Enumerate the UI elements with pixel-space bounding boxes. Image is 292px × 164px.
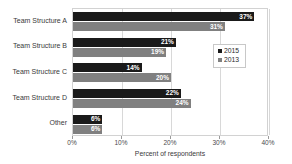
bar-2015: 6% bbox=[73, 115, 102, 124]
gridline bbox=[269, 9, 270, 135]
bar-value-label: 21% bbox=[161, 39, 176, 46]
bar-value-label: 22% bbox=[166, 90, 181, 97]
bar-2013: 24% bbox=[73, 99, 191, 108]
bar-track: 6% bbox=[73, 115, 267, 124]
legend-label: 2015 bbox=[224, 48, 239, 55]
x-axis-title: Percent of respondents bbox=[72, 151, 268, 158]
bar-2013: 6% bbox=[73, 125, 102, 134]
x-axis-ticks: 0%10%20%30%40% bbox=[72, 136, 268, 148]
bar-group: 6%6% bbox=[73, 111, 267, 137]
bar-group: 22%24% bbox=[73, 86, 267, 112]
bar-track: 22% bbox=[73, 89, 267, 98]
legend-label: 2013 bbox=[224, 57, 239, 64]
bar-value-label: 24% bbox=[176, 100, 191, 107]
category-label: Team Structure C bbox=[13, 68, 67, 75]
category-label: Other bbox=[49, 119, 67, 126]
bar-value-label: 14% bbox=[127, 65, 142, 72]
bar-2015: 14% bbox=[73, 63, 142, 72]
x-tick-label: 0% bbox=[67, 140, 76, 147]
category-axis: Team Structure ATeam Structure BTeam Str… bbox=[0, 8, 70, 136]
bar-value-label: 31% bbox=[210, 24, 225, 31]
bar-value-label: 6% bbox=[91, 116, 102, 123]
bar-track: 20% bbox=[73, 73, 267, 82]
category-label: Team Structure D bbox=[13, 94, 67, 101]
category-label: Team Structure B bbox=[13, 42, 67, 49]
bar-2013: 31% bbox=[73, 22, 225, 31]
legend-swatch-icon bbox=[218, 49, 222, 53]
legend-swatch-icon bbox=[218, 58, 222, 62]
bar-value-label: 20% bbox=[156, 75, 171, 82]
bar-2015: 37% bbox=[73, 12, 254, 21]
bar-track: 37% bbox=[73, 12, 267, 21]
x-tick-label: 40% bbox=[261, 140, 274, 147]
x-tick-label: 30% bbox=[212, 140, 225, 147]
category-label: Team Structure A bbox=[13, 17, 67, 24]
bar-2015: 21% bbox=[73, 38, 176, 47]
legend-item-2013[interactable]: 2013 bbox=[218, 57, 239, 64]
bar-value-label: 6% bbox=[91, 126, 102, 133]
bar-value-label: 37% bbox=[239, 14, 254, 21]
legend-item-2015[interactable]: 2015 bbox=[218, 48, 239, 55]
plot-area: 37%31%21%19%14%20%22%24%6%6% bbox=[72, 8, 268, 136]
bar-track: 31% bbox=[73, 22, 267, 31]
x-tick-label: 10% bbox=[114, 140, 127, 147]
x-tick-label: 20% bbox=[163, 140, 176, 147]
bar-group: 37%31% bbox=[73, 9, 267, 35]
bar-2013: 20% bbox=[73, 73, 171, 82]
bar-groups: 37%31%21%19%14%20%22%24%6%6% bbox=[73, 9, 267, 135]
bar-value-label: 19% bbox=[151, 49, 166, 56]
bar-chart: Team Structure ATeam Structure BTeam Str… bbox=[0, 0, 292, 164]
bar-track: 24% bbox=[73, 99, 267, 108]
bar-track: 6% bbox=[73, 125, 267, 134]
legend: 20152013 bbox=[213, 44, 246, 68]
bar-2013: 19% bbox=[73, 48, 166, 57]
bar-2015: 22% bbox=[73, 89, 181, 98]
